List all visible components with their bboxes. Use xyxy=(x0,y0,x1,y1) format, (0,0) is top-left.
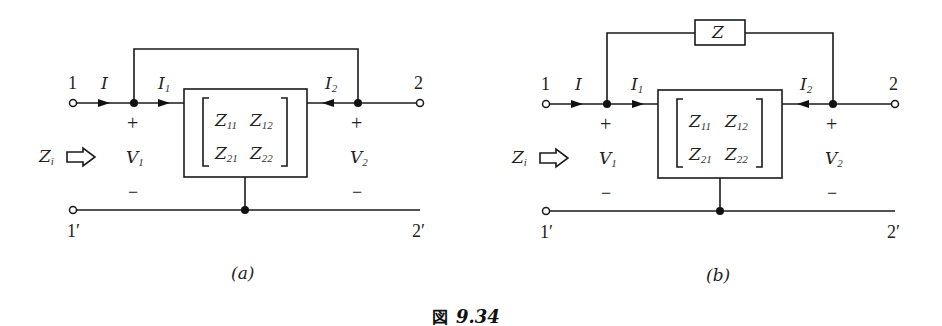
figure-caption: 図 9.34 xyxy=(432,306,500,326)
terminal-2prime-label: 2′ xyxy=(887,222,900,242)
terminal-1-icon xyxy=(70,100,77,107)
diagram-b: Z Z11 Z12 Z21 Z22 1 I I1 I2 2 + xyxy=(511,20,900,285)
current-i1-label: I1 xyxy=(157,73,170,94)
terminal-1prime-icon xyxy=(543,208,550,215)
subfigure-b-label: (b) xyxy=(706,265,730,285)
voltage-v2-label: V2 xyxy=(825,148,843,169)
subfigure-a-label: (a) xyxy=(231,263,254,283)
current-arrow-icon xyxy=(158,99,170,107)
current-arrow-icon xyxy=(322,99,334,107)
terminal-1prime-label: 1′ xyxy=(67,221,80,241)
v2-plus-label: + xyxy=(826,113,837,135)
terminal-2-icon xyxy=(417,100,424,107)
v2-minus-label: − xyxy=(352,182,362,202)
terminal-1-icon xyxy=(543,101,550,108)
junction-dot xyxy=(716,207,724,215)
junction-dot xyxy=(829,100,837,108)
current-i1-label: I1 xyxy=(630,74,643,95)
voltage-v1-label: V1 xyxy=(599,148,617,169)
terminal-2-label: 2 xyxy=(889,74,898,94)
diagram-a: Z11 Z12 Z21 Z22 1 I I1 I2 2 + V1 − + V2 … xyxy=(38,49,425,283)
terminal-1prime-icon xyxy=(70,207,77,214)
v1-minus-label: − xyxy=(128,182,138,202)
junction-dot xyxy=(603,100,611,108)
current-i-label: I xyxy=(574,74,582,94)
figure-canvas: Z11 Z12 Z21 Z22 1 I I1 I2 2 + V1 − + V2 … xyxy=(0,0,942,326)
terminal-1-label: 1 xyxy=(68,73,77,93)
junction-dot xyxy=(241,206,249,214)
v2-plus-label: + xyxy=(351,112,362,134)
v2-minus-label: − xyxy=(827,183,837,203)
current-i2-label: I2 xyxy=(799,74,813,95)
voltage-v1-label: V1 xyxy=(126,147,144,168)
caption-number: 9.34 xyxy=(456,306,500,326)
current-i2-label: I2 xyxy=(324,73,338,94)
current-arrow-icon xyxy=(797,100,809,108)
voltage-v2-label: V2 xyxy=(350,147,368,168)
junction-dot xyxy=(130,99,138,107)
current-i-label: I xyxy=(100,73,108,93)
current-arrow-icon xyxy=(98,99,110,107)
input-impedance-arrow-icon xyxy=(540,149,568,167)
current-arrow-icon xyxy=(632,100,644,108)
terminal-1prime-label: 1′ xyxy=(540,222,553,242)
terminal-2-icon xyxy=(892,101,899,108)
input-impedance-arrow-icon xyxy=(67,148,95,166)
current-arrow-icon xyxy=(571,100,583,108)
v1-plus-label: + xyxy=(127,112,138,134)
caption-prefix: 図 xyxy=(432,308,448,326)
v1-minus-label: − xyxy=(601,183,611,203)
input-impedance-label: Zi xyxy=(511,147,527,168)
terminal-1-label: 1 xyxy=(541,74,550,94)
junction-dot xyxy=(354,99,362,107)
input-impedance-label: Zi xyxy=(38,146,54,167)
feedback-impedance-label: Z xyxy=(711,22,725,42)
v1-plus-label: + xyxy=(600,113,611,135)
terminal-2prime-label: 2′ xyxy=(412,221,425,241)
terminal-2-label: 2 xyxy=(414,73,423,93)
